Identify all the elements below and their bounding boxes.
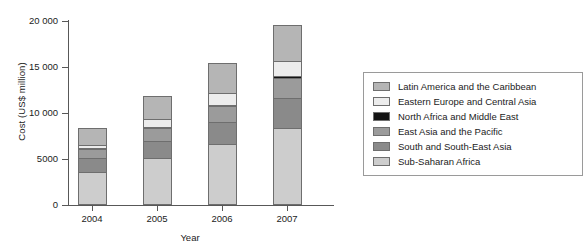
bar-segment[interactable] <box>274 79 301 99</box>
bar-2005[interactable] <box>143 96 172 205</box>
y-tick-label: 20 000 <box>29 15 58 26</box>
legend-item[interactable]: Latin America and the Caribbean <box>373 79 576 94</box>
legend-label: Latin America and the Caribbean <box>398 82 536 92</box>
bar-segment[interactable] <box>144 159 171 204</box>
legend-item[interactable]: Eastern Europe and Central Asia <box>373 94 576 109</box>
y-tick-label: 15 000 <box>29 61 58 72</box>
bar-segment[interactable] <box>144 129 171 142</box>
legend-swatch-icon <box>373 82 390 91</box>
y-tick-label: 10 000 <box>29 107 58 118</box>
bar-segment[interactable] <box>79 129 106 146</box>
bar-segment[interactable] <box>144 97 171 120</box>
bar-segment[interactable] <box>209 64 236 94</box>
bar-segment[interactable] <box>274 129 301 204</box>
legend-item[interactable]: East Asia and the Pacific <box>373 124 576 139</box>
bar-segment[interactable] <box>209 145 236 204</box>
bar-segment[interactable] <box>209 107 236 123</box>
y-axis-title: Cost (US$ million) <box>16 27 27 177</box>
bar-segment[interactable] <box>79 150 106 159</box>
bar-segment[interactable] <box>209 123 236 145</box>
stacked-bar-chart-figure: Cost (US$ million) 0500010 00015 00020 0… <box>0 0 588 252</box>
legend-swatch-icon <box>373 97 390 106</box>
x-tick <box>287 206 288 211</box>
legend-item[interactable]: South and South-East Asia <box>373 139 576 154</box>
chart-legend: Latin America and the CaribbeanEastern E… <box>363 72 583 176</box>
bar-2007[interactable] <box>273 25 302 205</box>
bar-segment[interactable] <box>79 173 106 204</box>
y-tick: 20 000 <box>62 21 69 22</box>
y-tick: 0 <box>62 205 69 206</box>
x-tick-label-2006: 2006 <box>192 213 252 224</box>
legend-label: Sub-Saharan Africa <box>398 157 480 167</box>
bar-2006[interactable] <box>208 63 237 205</box>
legend-swatch-icon <box>373 112 390 121</box>
legend-item[interactable]: North Africa and Middle East <box>373 109 576 124</box>
legend-swatch-icon <box>373 127 390 136</box>
legend-swatch-icon <box>373 142 390 151</box>
bar-segment[interactable] <box>144 142 171 159</box>
legend-swatch-icon <box>373 157 390 166</box>
legend-label: East Asia and the Pacific <box>398 127 503 137</box>
legend-label: South and South-East Asia <box>398 142 512 152</box>
x-tick <box>92 206 93 211</box>
y-tick-label: 5000 <box>37 153 58 164</box>
y-tick: 10 000 <box>62 113 69 114</box>
legend-item[interactable]: Sub-Saharan Africa <box>373 154 576 169</box>
bar-segment[interactable] <box>209 94 236 106</box>
bar-segment[interactable] <box>274 62 301 77</box>
x-tick <box>222 206 223 211</box>
bar-segment[interactable] <box>144 120 171 128</box>
y-tick-label: 0 <box>53 199 58 210</box>
x-axis-title: Year <box>60 232 320 243</box>
legend-label: Eastern Europe and Central Asia <box>398 97 536 107</box>
x-axis-line <box>68 205 334 206</box>
x-tick <box>157 206 158 211</box>
bar-segment[interactable] <box>274 99 301 129</box>
x-tick-label-2005: 2005 <box>127 213 187 224</box>
y-tick: 5000 <box>62 159 69 160</box>
y-tick: 15 000 <box>62 67 69 68</box>
bar-2004[interactable] <box>78 128 107 205</box>
bar-segment[interactable] <box>274 26 301 62</box>
plot-area: Cost (US$ million) 0500010 00015 00020 0… <box>0 0 352 252</box>
x-tick-label-2007: 2007 <box>257 213 317 224</box>
legend-label: North Africa and Middle East <box>398 112 518 122</box>
x-tick-label-2004: 2004 <box>62 213 122 224</box>
bar-segment[interactable] <box>79 159 106 172</box>
